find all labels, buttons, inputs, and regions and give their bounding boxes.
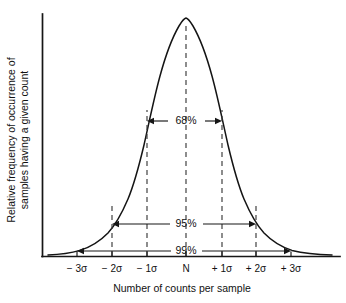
annotation-95-percent: 95% xyxy=(112,217,256,229)
annotation-68-percent: 68% xyxy=(147,114,222,126)
annotation-99-label: 99% xyxy=(175,244,196,256)
x-tick-label-minus-3-sigma: − 3σ xyxy=(67,263,88,274)
plot-canvas: Relative frequency of occurrence of samp… xyxy=(0,0,346,303)
annotation-99-left-arrowhead xyxy=(77,248,84,254)
y-axis-label-line1: Relative frequency of occurrence of xyxy=(5,57,17,222)
normal-distribution-figure: Relative frequency of occurrence of samp… xyxy=(0,0,346,303)
x-tick-label-minus-2-sigma: − 2σ xyxy=(102,263,123,274)
x-tick-label-minus-1-sigma: − 1σ xyxy=(137,263,158,274)
x-axis-title: Number of counts per sample xyxy=(113,282,251,294)
y-axis-label: Relative frequency of occurrence of samp… xyxy=(5,57,30,222)
annotation-68-right-arrowhead xyxy=(215,118,222,124)
annotation-95-label: 95% xyxy=(175,217,196,229)
annotation-68-label: 68% xyxy=(175,114,196,126)
x-tick-label-plus-3-sigma: + 3σ xyxy=(281,263,302,274)
x-tick-label-center: N xyxy=(182,263,189,274)
x-tick-label-plus-2-sigma: + 2σ xyxy=(246,263,267,274)
annotation-99-percent: 99% xyxy=(77,244,291,256)
x-axis-tick-labels: − 3σ − 2σ − 1σ N + 1σ + 2σ + 3σ xyxy=(67,263,302,274)
y-axis-label-line2: samples having a given count xyxy=(18,71,30,209)
x-tick-label-plus-1-sigma: + 1σ xyxy=(212,263,233,274)
